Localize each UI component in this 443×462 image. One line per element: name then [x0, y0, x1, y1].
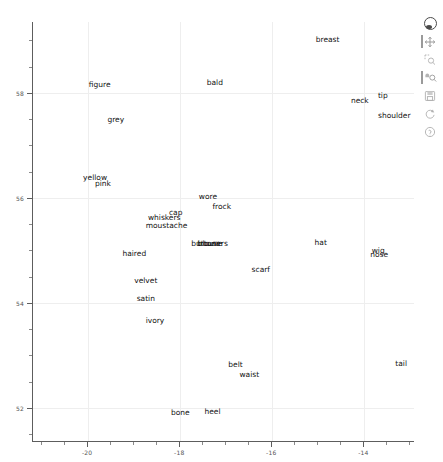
y-axis-tick-label: 58 [16, 89, 24, 96]
scatter-point-label: wore [199, 193, 217, 201]
pan-tool-active-indicator [421, 35, 423, 48]
y-axis-minor-tick [29, 119, 32, 120]
help-tool-button[interactable] [421, 124, 439, 139]
x-axis-tick-label: -16 [266, 449, 276, 456]
y-axis-minor-tick [29, 224, 32, 225]
x-axis-tick-label: -14 [358, 449, 368, 456]
y-axis-minor-tick [29, 172, 32, 173]
scatter-point-label: ivory [146, 317, 165, 325]
scatter-point-label: pink [95, 180, 111, 188]
gridline-vertical [180, 22, 181, 441]
x-axis-minor-tick [340, 442, 341, 445]
x-axis-minor-tick [409, 442, 410, 445]
scatter-point-label: trousers [197, 240, 228, 248]
scatter-point-label: frock [212, 204, 231, 212]
y-axis-major-tick [27, 198, 32, 199]
figure-canvas: breastfigurebaldtipneckshouldergreyyello… [0, 0, 443, 462]
scatter-point-label: satin [137, 295, 155, 303]
pan-tool-button[interactable] [421, 34, 439, 49]
y-axis-tick-label: 52 [16, 404, 24, 411]
scatter-point-label: tail [395, 361, 407, 369]
scatter-point-label: whiskers [148, 214, 181, 222]
scatter-point-label: grey [107, 116, 124, 124]
plot-toolbar[interactable] [419, 16, 441, 139]
y-axis-major-tick [27, 303, 32, 304]
y-axis-minor-tick [29, 250, 32, 251]
scatter-point-label: moustache [146, 222, 188, 230]
scatter-point-label: bald [207, 80, 223, 88]
y-axis-minor-tick [29, 382, 32, 383]
y-axis-tick-label: 56 [16, 194, 24, 201]
y-axis-minor-tick [29, 67, 32, 68]
bokeh-logo-icon [421, 16, 439, 31]
y-axis-minor-tick [29, 329, 32, 330]
x-axis-minor-tick [225, 442, 226, 445]
scatter-point-label: figure [89, 81, 111, 89]
wheel-zoom-active-indicator [421, 71, 423, 84]
y-axis-minor-tick [29, 40, 32, 41]
y-axis-major-tick [27, 93, 32, 94]
wheel-zoom-tool-button[interactable] [421, 70, 439, 85]
x-axis-minor-tick [64, 442, 65, 445]
y-axis-minor-tick [29, 434, 32, 435]
scatter-point-label: waist [239, 372, 259, 380]
y-axis-tick-label: 54 [16, 299, 24, 306]
gridline-vertical [272, 22, 273, 441]
x-axis-minor-tick [294, 442, 295, 445]
save-tool-button[interactable] [421, 88, 439, 103]
x-axis-tick-label: -20 [82, 449, 92, 456]
x-axis-major-tick [271, 442, 272, 447]
scatter-point-label: nose [370, 251, 388, 259]
scatter-point-label: shoulder [378, 112, 411, 120]
scatter-point-label: haired [122, 250, 146, 258]
x-axis-minor-tick [317, 442, 318, 445]
scatter-point-label: tip [378, 92, 388, 100]
reset-tool-button[interactable] [421, 106, 439, 121]
scatter-point-label: belt [228, 361, 242, 369]
x-axis-minor-tick [41, 442, 42, 445]
scatter-point-label: heel [204, 408, 220, 416]
x-axis-major-tick [179, 442, 180, 447]
box-zoom-tool-button[interactable] [421, 52, 439, 67]
x-axis-minor-tick [156, 442, 157, 445]
gridline-horizontal [33, 93, 414, 94]
y-axis-major-tick [27, 408, 32, 409]
x-axis-minor-tick [110, 442, 111, 445]
gridline-vertical [364, 22, 365, 441]
x-axis-minor-tick [248, 442, 249, 445]
scatter-point-label: velvet [134, 277, 157, 285]
x-axis-minor-tick [202, 442, 203, 445]
x-axis-minor-tick [133, 442, 134, 445]
scatter-point-label: breast [316, 37, 340, 45]
plot-area[interactable]: breastfigurebaldtipneckshouldergreyyello… [32, 22, 414, 442]
gridline-horizontal [33, 198, 414, 199]
scatter-point-label: neck [351, 98, 369, 106]
x-axis-major-tick [87, 442, 88, 447]
gridline-horizontal [33, 303, 414, 304]
y-axis-minor-tick [29, 145, 32, 146]
x-axis-major-tick [363, 442, 364, 447]
scatter-point-label: scarf [252, 267, 270, 275]
x-axis-minor-tick [386, 442, 387, 445]
y-axis-minor-tick [29, 355, 32, 356]
scatter-point-label: bone [171, 409, 190, 417]
scatter-point-label: hat [315, 239, 327, 247]
y-axis-minor-tick [29, 277, 32, 278]
x-axis-tick-label: -18 [174, 449, 184, 456]
gridline-horizontal [33, 408, 414, 409]
